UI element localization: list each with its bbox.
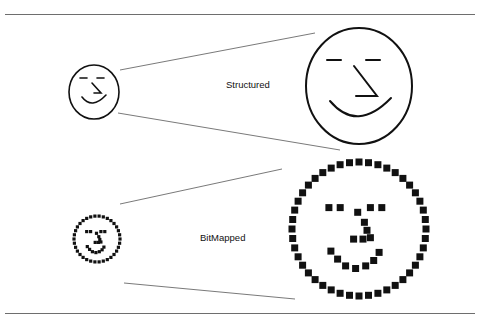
bitmap-dot [356, 159, 363, 166]
bitmap-dot [118, 242, 121, 245]
bitmap-dot [289, 235, 296, 242]
bitmap-dot [73, 242, 76, 245]
bitmap-dot [342, 262, 349, 269]
bitmap-dot [99, 230, 102, 233]
bitmap-dot [356, 293, 363, 300]
bitmap-dot [106, 217, 109, 220]
bitmap-dot [98, 215, 101, 218]
bitmap-dot [312, 276, 319, 283]
bitmap-dot [350, 236, 357, 243]
bitmap-dot [94, 251, 97, 254]
bitmap-dot [299, 262, 306, 269]
bitmap-dot [334, 256, 341, 263]
bitmap-dot [72, 237, 75, 240]
bitmap-dot [98, 250, 101, 253]
bitmap-face-large [289, 159, 430, 300]
bitmap-dot [299, 189, 306, 196]
bitmap-dot [360, 236, 367, 243]
bitmap-dot [115, 225, 118, 228]
bitmap-dot [420, 207, 427, 214]
bitmap-dot [383, 286, 390, 293]
bitmap-dot [86, 245, 89, 248]
bitmap-dot [78, 222, 81, 225]
nose [354, 66, 377, 96]
bitmap-dot [328, 165, 335, 172]
bitmap-dot [370, 257, 377, 264]
structured-face-small [69, 65, 119, 119]
bitmap-dot [305, 182, 312, 189]
bitmap-dot [354, 209, 361, 216]
bitmap-dot [289, 226, 296, 233]
zoom-line-top-structured [120, 33, 315, 70]
bitmap-dot [406, 182, 413, 189]
bitmap-dot [337, 204, 344, 211]
bitmap-dot [325, 204, 332, 211]
bitmap-dot [319, 169, 326, 176]
bitmap-dot [337, 290, 344, 297]
bitmap-dot [392, 282, 399, 289]
bitmap-dot [416, 198, 423, 205]
bitmap-dot [337, 161, 344, 168]
bitmap-dot [82, 256, 85, 259]
bitmap-dot [73, 233, 76, 236]
bitmap-dot [82, 219, 85, 222]
bitmap-dot [412, 262, 419, 269]
bitmap-dot [392, 169, 399, 176]
bitmap-dot [376, 249, 383, 256]
bitmap-dot [85, 258, 88, 261]
bitmap-dot [319, 282, 326, 289]
bitmap-dot [365, 159, 372, 166]
bitmap-dot [362, 262, 369, 269]
bitmap-dot [367, 204, 374, 211]
bitmap-dot [97, 241, 100, 244]
bitmap-dot [365, 292, 372, 299]
bitmap-dot [422, 216, 429, 223]
bitmap-dot [295, 198, 302, 205]
bitmap-dot [346, 292, 353, 299]
bitmap-dot [106, 258, 109, 261]
bitmap-dot [93, 215, 96, 218]
bitmap-dot [76, 250, 79, 253]
bitmap-dot [102, 215, 105, 218]
bitmap-dot [112, 253, 115, 256]
bitmap-dot [74, 246, 77, 249]
bitmap-dot [291, 207, 298, 214]
bitmap-dot [85, 217, 88, 220]
bitmap-dot [103, 230, 106, 233]
bitmap-dot [305, 269, 312, 276]
bitmap-dot [85, 230, 88, 233]
structured-face-large [306, 28, 412, 144]
bitmap-dot [112, 222, 115, 225]
bitmap-dot [91, 250, 94, 253]
bitmap-dot [118, 233, 121, 236]
face-outline [306, 28, 412, 144]
bitmap-dot [327, 248, 334, 255]
zoom-line-top-bitmap [120, 169, 282, 204]
bitmap-dot [88, 248, 91, 251]
zoom-line-bottom-bitmap [124, 283, 295, 299]
smile [82, 95, 106, 103]
bitmap-dot [352, 265, 359, 272]
bitmap-dot [76, 225, 79, 228]
bitmapped-label: BitMapped [200, 232, 245, 243]
bitmap-dot [98, 260, 101, 263]
bitmap-dot [97, 235, 100, 238]
bitmap-dot [374, 290, 381, 297]
bitmap-dot [399, 175, 406, 182]
bitmap-dot [420, 244, 427, 251]
bitmap-dot [109, 219, 112, 222]
bitmap-dot [74, 229, 77, 232]
bitmap-dot [78, 253, 81, 256]
bitmap-dot [312, 175, 319, 182]
bitmap-dot [94, 241, 97, 244]
bitmap-dot [117, 246, 120, 249]
bitmap-face-small [72, 215, 121, 264]
bitmap-dot [295, 253, 302, 260]
bitmap-dot [93, 260, 96, 263]
bitmap-dot [378, 204, 385, 211]
bitmap-dot [89, 230, 92, 233]
bitmap-dot [118, 237, 121, 240]
bitmap-dot [416, 253, 423, 260]
face-outline [69, 65, 119, 119]
bitmap-dot [399, 276, 406, 283]
